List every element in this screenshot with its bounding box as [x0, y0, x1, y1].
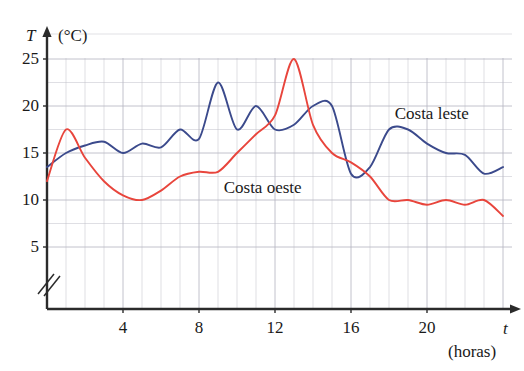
series-label-costa-leste: Costa leste — [395, 104, 469, 124]
x-tick-label-4: 4 — [103, 319, 143, 336]
y-tick-label-5: 5 — [9, 238, 39, 255]
grid-layer — [47, 34, 512, 309]
y-tick-label-20: 20 — [9, 97, 39, 114]
y-axis-unit: (°C) — [58, 26, 87, 46]
y-tick-label-10: 10 — [9, 191, 39, 208]
y-tick-label-15: 15 — [9, 144, 39, 161]
x-axis-unit: (horas) — [448, 342, 496, 362]
x-tick-label-20: 20 — [407, 319, 447, 336]
axis-layer — [38, 26, 521, 314]
y-tick-label-25: 25 — [9, 50, 39, 67]
series-label-costa-oeste: Costa oeste — [224, 178, 302, 198]
y-axis-name: T — [26, 26, 35, 46]
x-tick-label-16: 16 — [331, 319, 371, 336]
x-tick-label-12: 12 — [255, 319, 295, 336]
x-tick-label-8: 8 — [179, 319, 219, 336]
x-axis-name: t — [503, 319, 508, 339]
temperature-line-chart: T (°C) t (horas) 252015105 48121620 Cost… — [0, 0, 524, 371]
